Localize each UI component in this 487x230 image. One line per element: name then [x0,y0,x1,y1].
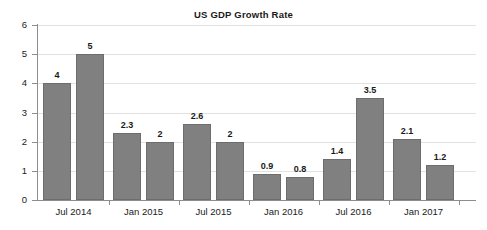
y-axis-label: 0 [0,195,27,205]
y-axis-tick [32,171,37,172]
x-axis-tick [389,200,390,205]
y-axis-label: 1 [0,166,27,176]
y-axis-label: 3 [0,108,27,118]
bar [76,54,104,200]
bar-value-label: 4 [37,71,77,80]
y-axis-tick [32,113,37,114]
bar [426,165,454,200]
x-axis-tick [249,200,250,205]
y-axis-tick [32,54,37,55]
y-axis-label: 4 [0,78,27,88]
x-axis-tick [459,200,460,205]
bar [286,177,314,200]
bar-value-label: 2 [140,130,180,139]
bar [113,133,141,200]
bar [183,124,211,200]
x-axis-tick [179,200,180,205]
bar-value-label: 1.2 [420,153,460,162]
y-axis-tick [32,25,37,26]
bar [356,98,384,200]
bar-value-label: 2 [210,130,250,139]
x-axis-label: Jan 2017 [379,207,469,217]
bar [393,139,421,200]
bar-value-label: 2.3 [107,121,147,130]
bar [43,83,71,200]
bar-value-label: 3.5 [350,86,390,95]
chart-title: US GDP Growth Rate [0,9,487,20]
x-axis-tick [319,200,320,205]
bar-value-label: 2.6 [177,112,217,121]
y-axis-label: 5 [0,49,27,59]
bar [146,142,174,200]
gridline [38,200,476,201]
y-axis-tick [32,200,37,201]
y-axis-tick [32,142,37,143]
bar [216,142,244,200]
gridline [38,25,476,26]
y-axis-label: 6 [0,20,27,30]
y-axis-tick [32,83,37,84]
bar-value-label: 1.4 [317,147,357,156]
bar-value-label: 0.8 [280,165,320,174]
bar [323,159,351,200]
bar [253,174,281,200]
bar-chart: US GDP Growth Rate 0123456 452.322.620.9… [0,0,487,230]
bar-value-label: 2.1 [387,127,427,136]
plot-area: 452.322.620.90.81.43.52.11.2 [38,25,476,200]
x-axis-tick [109,200,110,205]
y-axis-label: 2 [0,137,27,147]
bar-value-label: 5 [70,42,110,51]
